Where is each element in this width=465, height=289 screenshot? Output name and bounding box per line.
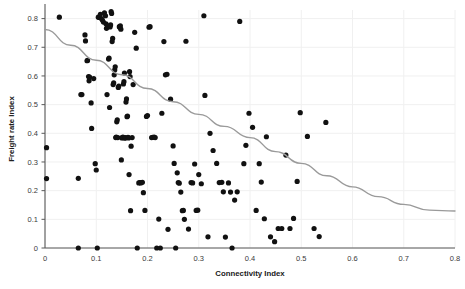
y-tick-label: 0.8 (28, 14, 38, 23)
data-point (211, 148, 216, 153)
data-point (254, 208, 259, 213)
data-point (121, 79, 126, 84)
data-point (57, 15, 62, 20)
data-point (128, 208, 133, 213)
data-point (183, 39, 188, 44)
gridlines (45, 10, 455, 248)
data-point (134, 46, 139, 51)
data-point (108, 22, 113, 27)
data-point (257, 161, 262, 166)
data-point (207, 131, 212, 136)
data-point (110, 36, 115, 41)
chart-canvas: 00.10.20.30.40.50.60.70.8 00.10.20.30.40… (0, 0, 465, 289)
data-point (103, 13, 108, 18)
data-point (153, 135, 158, 140)
data-point (195, 208, 200, 213)
x-axis-title: Connectivity Index (215, 269, 285, 278)
data-point (82, 32, 87, 37)
data-point (199, 181, 204, 186)
y-tick-label: 0.6 (28, 72, 38, 81)
data-point (182, 217, 187, 222)
data-points (44, 9, 329, 250)
data-point (95, 245, 100, 250)
data-point (107, 105, 112, 110)
y-axis-title: Freight rate Index (7, 96, 16, 162)
data-point (262, 216, 267, 221)
x-tick-label: 0.4 (245, 254, 255, 263)
x-tick-label: 0.6 (347, 254, 357, 263)
data-point (126, 172, 131, 177)
data-point (132, 30, 137, 35)
data-point (127, 69, 132, 74)
data-point (298, 110, 303, 115)
x-tick-label: 0.2 (142, 254, 152, 263)
data-point (291, 216, 296, 221)
data-point (91, 76, 96, 81)
data-point (159, 111, 164, 116)
data-point (116, 83, 121, 88)
data-point (164, 72, 169, 77)
y-tick-label: 0 (34, 244, 38, 253)
data-point (109, 11, 114, 16)
data-point (76, 245, 81, 250)
data-point (181, 208, 186, 213)
data-point (186, 226, 191, 231)
x-tick-label: 0.7 (399, 254, 409, 263)
data-point (115, 117, 120, 122)
y-tick-label: 0.2 (28, 186, 38, 195)
data-point (111, 80, 116, 85)
data-point (272, 239, 277, 244)
data-point (221, 189, 226, 194)
y-tick-label: 0.3 (28, 158, 38, 167)
data-point (202, 93, 207, 98)
data-point (178, 189, 183, 194)
data-point (235, 189, 240, 194)
data-point (264, 134, 269, 139)
data-point (130, 135, 135, 140)
data-point (79, 92, 84, 97)
data-point (83, 38, 88, 43)
data-point (161, 39, 166, 44)
x-tick-label: 0.1 (91, 254, 101, 263)
data-point (94, 167, 99, 172)
data-point (214, 161, 219, 166)
data-point (44, 176, 49, 181)
data-point (287, 226, 292, 231)
x-tick-label: 0 (43, 254, 47, 263)
data-point (259, 179, 264, 184)
y-tick-labels: 00.10.20.30.40.50.60.70.8 (28, 14, 38, 252)
data-point (232, 198, 237, 203)
data-point (268, 234, 273, 239)
data-point (229, 245, 234, 250)
y-tick-label: 0.4 (28, 129, 38, 138)
x-tick-label: 0.3 (194, 254, 204, 263)
data-point (119, 157, 124, 162)
data-point (113, 64, 118, 69)
x-tick-labels: 00.10.20.30.40.50.60.70.8 (43, 254, 460, 263)
data-point (158, 245, 163, 250)
data-point (89, 126, 94, 131)
data-point (76, 176, 81, 181)
data-point (89, 100, 94, 105)
data-point (279, 226, 284, 231)
data-point (243, 143, 248, 148)
data-point (311, 226, 316, 231)
data-point (142, 208, 147, 213)
data-point (192, 161, 197, 166)
data-point (135, 245, 140, 250)
data-point (165, 227, 170, 232)
data-point (237, 19, 242, 24)
data-point (129, 144, 134, 149)
y-tick-label: 0.7 (28, 43, 38, 52)
data-point (250, 125, 255, 130)
data-point (323, 120, 328, 125)
data-point (241, 161, 246, 166)
data-point (190, 180, 195, 185)
data-point (124, 96, 129, 101)
data-point (141, 190, 146, 195)
data-point (156, 216, 161, 221)
data-point (145, 113, 150, 118)
data-point (196, 172, 201, 177)
data-point (175, 170, 180, 175)
data-point (173, 245, 178, 250)
